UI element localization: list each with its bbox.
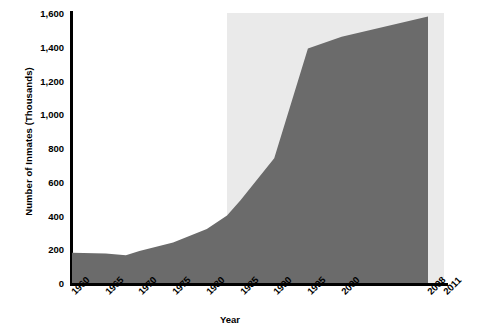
x-axis-tick-labels: 1960196519701975198019851990199520002008… — [0, 0, 489, 334]
x-tick-label: 2000 — [339, 274, 362, 297]
x-axis-title: Year — [0, 314, 460, 325]
inmate-population-area-chart: Number of Inmates (Thousands) 0200400600… — [0, 0, 489, 334]
x-tick-label: 1980 — [204, 274, 227, 297]
x-tick-label: 1960 — [69, 274, 92, 297]
x-tick-label: 1975 — [170, 274, 193, 297]
x-tick-label: 1970 — [136, 274, 159, 297]
x-tick-label: 1985 — [238, 274, 261, 297]
x-tick-label: 1995 — [305, 274, 328, 297]
x-tick-label: 1990 — [271, 274, 294, 297]
x-tick-label: 1965 — [103, 274, 126, 297]
